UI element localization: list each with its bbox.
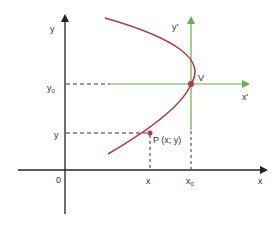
x-label: x [146, 176, 151, 186]
origin-label: 0 [56, 175, 61, 185]
y0-label: y0 [47, 83, 56, 94]
point-p [148, 131, 153, 136]
point-p-label: P (x; y) [153, 135, 181, 145]
y-label: y [54, 130, 59, 140]
y-prime-label: y' [172, 22, 179, 32]
x-axis-label: x [258, 176, 263, 186]
parabola-diagram: y x 0 y' x' V y0 y P (x; y) x x0 [0, 0, 280, 227]
vertex-point [188, 81, 194, 87]
x-prime-label: x' [242, 92, 249, 102]
x0-label: x0 [186, 176, 195, 187]
y-axis-label: y [50, 24, 55, 34]
vertex-label: V [198, 73, 204, 83]
